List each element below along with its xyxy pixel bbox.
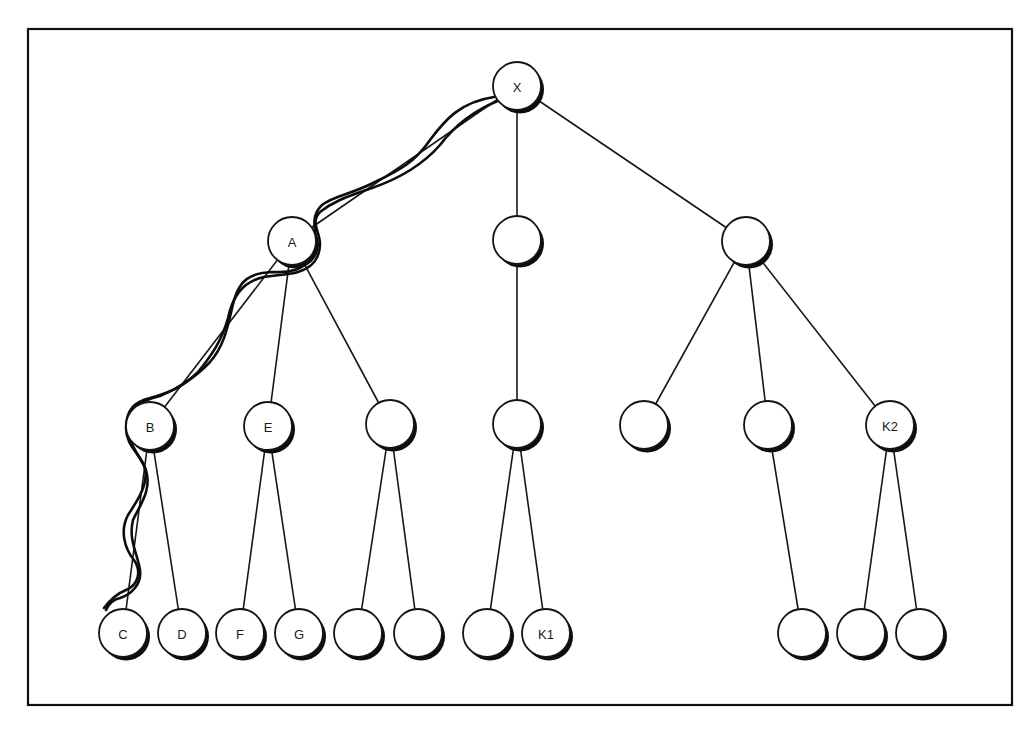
edge-r1-k2: [746, 241, 890, 425]
node-circle: [366, 400, 414, 448]
tree-diagram: XABEK2CDFGK1: [0, 0, 1035, 730]
edge-a-b: [150, 241, 292, 426]
node-label: X: [513, 80, 522, 95]
traversal-path: [104, 97, 500, 610]
node-label: A: [288, 235, 297, 250]
tree-node-r1: [722, 217, 773, 269]
node-circle: [837, 609, 885, 657]
tree-node-g: G: [275, 609, 326, 661]
traversal-path-stroke-1: [106, 97, 494, 610]
node-label: K2: [882, 419, 898, 434]
traversal-path-stroke-2: [104, 100, 500, 608]
node-label: C: [118, 627, 127, 642]
node-circle: [620, 401, 668, 449]
tree-node-c: C: [99, 609, 150, 661]
tree-node-m1: [493, 216, 544, 268]
node-label: F: [236, 627, 244, 642]
node-label: B: [146, 420, 155, 435]
tree-node-d: D: [158, 609, 209, 661]
node-circle: [463, 609, 511, 657]
node-label: D: [177, 627, 186, 642]
edge-a3-a3b: [390, 424, 418, 633]
tree-node-e: E: [244, 402, 295, 454]
node-circle: [394, 609, 442, 657]
edge-e-f: [240, 426, 268, 633]
edge-b-c: [123, 426, 150, 633]
edge-r1-r2a: [644, 241, 746, 425]
tree-node-f: F: [216, 609, 267, 661]
tree-node-a: A: [268, 217, 319, 269]
tree-node-a3b: [394, 609, 445, 661]
tree-node-k2: K2: [866, 401, 917, 453]
edge-m2-m3a: [487, 424, 517, 633]
tree-node-r3: [778, 609, 829, 661]
tree-node-r2a: [620, 401, 671, 453]
tree-node-r2b: [744, 401, 795, 453]
edge-x-r1: [517, 86, 746, 241]
edge-m2-k1: [517, 424, 546, 633]
node-label: E: [264, 420, 273, 435]
node-circle: [722, 217, 770, 265]
tree-node-k2a: [837, 609, 888, 661]
node-circle: [493, 216, 541, 264]
node-circle: [778, 609, 826, 657]
edge-r1-r2b: [746, 241, 768, 425]
tree-node-a3a: [334, 609, 385, 661]
edges-layer: [123, 86, 920, 633]
edge-b-d: [150, 426, 182, 633]
edge-r2b-r3: [768, 425, 802, 633]
tree-node-m2: [493, 400, 544, 452]
edge-k2-k2b: [890, 425, 920, 633]
edge-k2-k2a: [861, 425, 890, 633]
node-label: G: [294, 627, 304, 642]
node-circle: [334, 609, 382, 657]
tree-node-k2b: [896, 609, 947, 661]
node-label: K1: [538, 627, 554, 642]
node-circle: [744, 401, 792, 449]
node-circle: [493, 400, 541, 448]
nodes-layer: XABEK2CDFGK1: [99, 62, 947, 661]
edge-e-g: [268, 426, 299, 633]
tree-node-k1: K1: [522, 609, 573, 661]
tree-node-m3a: [463, 609, 514, 661]
tree-node-a3: [366, 400, 417, 452]
tree-node-x: X: [493, 62, 544, 114]
node-circle: [896, 609, 944, 657]
edge-a3-a3a: [358, 424, 390, 633]
